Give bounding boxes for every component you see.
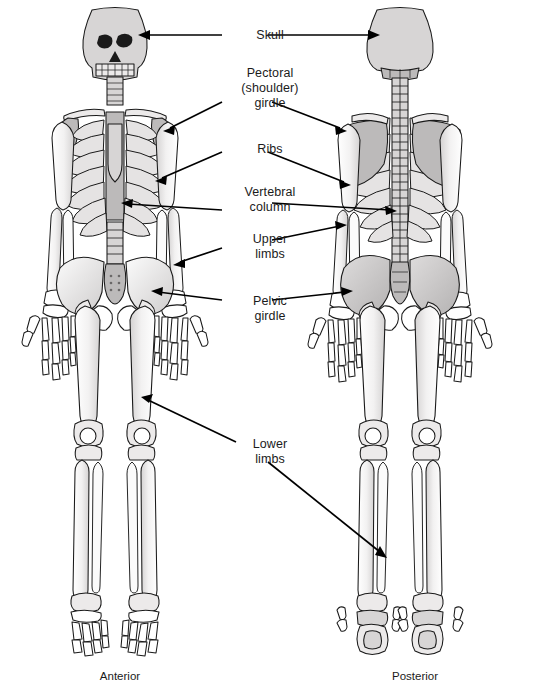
knee-left <box>74 420 103 460</box>
posterior-skull <box>367 8 433 81</box>
anterior-cervical-spine <box>107 77 123 105</box>
femur-left <box>75 306 100 427</box>
posterior-femur-right <box>415 306 440 427</box>
posterior-fibula-right <box>412 462 423 593</box>
humerus-right <box>156 122 178 210</box>
leader-lower-limbs <box>141 394 387 558</box>
fibula-right <box>127 462 138 593</box>
label-pectoral-girdle: Pectoral (shoulder) girdle <box>228 66 312 111</box>
sacrum <box>104 264 126 304</box>
posterior-skeleton <box>308 8 492 655</box>
knee-right <box>127 420 156 460</box>
anterior-skull <box>83 8 147 81</box>
caption-anterior: Anterior <box>60 670 180 682</box>
label-ribs: Ribs <box>228 142 312 157</box>
skeleton-diagram: Skull Pectoral (shoulder) girdle Ribs Ve… <box>0 0 540 692</box>
label-upper-limbs: Upper limbs <box>228 232 312 262</box>
label-lower-limbs: Lower limbs <box>228 437 312 467</box>
posterior-femur-left <box>360 306 385 427</box>
lumbar-spine <box>107 222 123 264</box>
tibia-right <box>141 460 157 600</box>
sternum <box>108 124 122 182</box>
label-skull: Skull <box>228 28 312 43</box>
posterior-humerus-left <box>338 124 360 212</box>
tibia-left <box>73 460 89 600</box>
posterior-humerus-right <box>440 124 462 212</box>
fibula-left <box>92 462 103 593</box>
femur-right <box>130 306 155 427</box>
label-pelvic-girdle: Pelvic girdle <box>228 294 312 324</box>
anterior-skeleton <box>22 8 208 657</box>
leader-ribs <box>155 152 351 189</box>
foot-left <box>71 593 109 656</box>
posterior-tibia-right <box>426 460 442 600</box>
posterior-vertebral-column <box>392 78 408 264</box>
posterior-fibula-left <box>377 462 388 593</box>
posterior-foot-left <box>337 593 402 655</box>
label-vertebral-column: Vertebral column <box>228 185 312 215</box>
posterior-knee-left <box>359 420 388 460</box>
humerus-left <box>52 122 74 210</box>
posterior-tibia-left <box>358 460 374 600</box>
posterior-knee-right <box>412 420 441 460</box>
foot-right <box>121 593 159 656</box>
caption-posterior: Posterior <box>355 670 475 682</box>
posterior-foot-right <box>398 593 463 655</box>
